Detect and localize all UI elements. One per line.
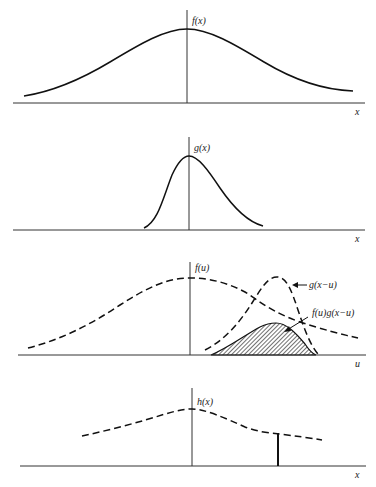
u-axis-label: u xyxy=(355,358,360,369)
g-curve xyxy=(144,156,263,228)
f-label: f(x) xyxy=(192,15,207,27)
product-label: f(u)g(x−u) xyxy=(312,307,355,319)
panel-g: g(x) x xyxy=(13,137,365,244)
g-label: g(x) xyxy=(194,142,211,154)
panel-h: h(x) x xyxy=(20,388,366,480)
arrowhead-icon xyxy=(292,282,298,288)
x-axis-label: x xyxy=(354,233,360,244)
x-axis-label: x xyxy=(354,106,360,117)
x-axis-label: x xyxy=(354,469,360,480)
convolution-figure: f(x) x g(x) x f(u) g(x−u) f(u)g(x−u) u h… xyxy=(0,0,376,487)
product-shaded-area xyxy=(211,323,316,355)
g-x-minus-u-label: g(x−u) xyxy=(309,279,338,291)
f-u-label: f(u) xyxy=(195,262,210,274)
f-curve xyxy=(24,29,353,96)
h-curve xyxy=(82,409,322,440)
panel-product: f(u) g(x−u) f(u)g(x−u) u xyxy=(18,262,366,369)
h-label: h(x) xyxy=(197,396,214,408)
panel-f: f(x) x xyxy=(13,10,365,117)
